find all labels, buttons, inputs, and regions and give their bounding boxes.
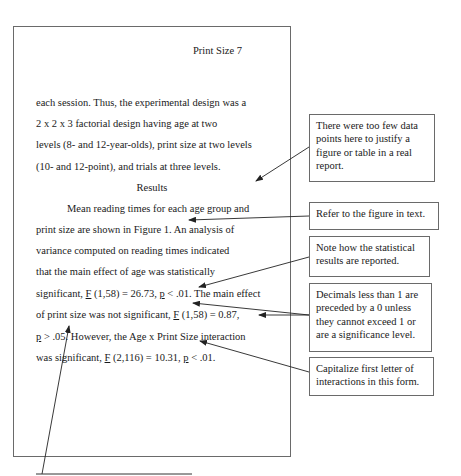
arrow-refer-to-figure [189,216,309,220]
arrow-bottom-pointer [42,326,69,474]
arrow-decimals-1 [193,303,309,315]
arrow-too-few-data [256,147,309,181]
arrow-statistical-results [199,257,309,287]
arrow-capitalize [200,341,309,372]
callout-arrows [0,0,461,476]
